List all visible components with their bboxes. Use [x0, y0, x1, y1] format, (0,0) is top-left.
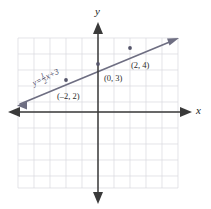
- point-label-0-3: (0, 3): [104, 74, 122, 83]
- graph-figure: y x (–2, 2) (0, 3) (2, 4) y=12x+3: [0, 0, 211, 209]
- y-axis: [93, 22, 103, 204]
- point-marker: [64, 78, 68, 82]
- point-marker: [128, 46, 132, 50]
- y-axis-label: y: [95, 6, 100, 17]
- point-marker: [96, 62, 100, 66]
- x-axis-label: x: [196, 105, 201, 116]
- point-label-neg2-2: (–2, 2): [57, 92, 80, 101]
- coordinate-plane: [0, 0, 211, 209]
- point-label-2-4: (2, 4): [131, 61, 149, 70]
- x-axis: [8, 107, 192, 117]
